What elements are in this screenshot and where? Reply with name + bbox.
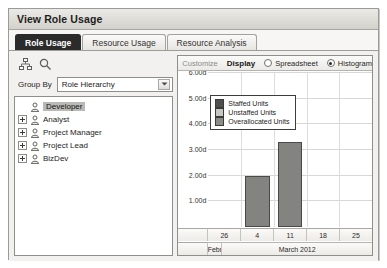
legend-swatch-icon xyxy=(215,108,224,117)
category-gridline xyxy=(339,73,340,227)
expand-plus-icon[interactable] xyxy=(18,128,27,137)
tree-item-label: BizDev xyxy=(43,154,68,163)
tree-item-bizdev[interactable]: BizDev xyxy=(15,152,172,165)
tree-item-project-lead[interactable]: Project Lead xyxy=(15,139,172,152)
window-titlebar: View Role Usage xyxy=(9,9,378,30)
tree-item-label: Project Lead xyxy=(43,141,88,150)
x-axis-month-row: Febr March 2012 xyxy=(208,242,372,255)
tab-strip: Role Usage Resource Usage Resource Analy… xyxy=(9,30,378,51)
radio-histogram-label: Histogram xyxy=(338,59,372,68)
legend-swatch-icon xyxy=(215,117,224,126)
month-label-february: Febr xyxy=(208,243,222,255)
screenshot-root: View Role Usage Role Usage Resource Usag… xyxy=(0,0,387,268)
legend-label: Overallocated Units xyxy=(228,118,289,125)
month-label-march: March 2012 xyxy=(222,243,372,255)
display-label: Display xyxy=(227,59,255,68)
radio-spreadsheet-label: Spreadsheet xyxy=(275,59,318,68)
x-axis-labels: 26 4 11 18 25 xyxy=(208,228,372,241)
y-axis-tick: 6.00d xyxy=(189,71,207,76)
bar-mar-11[interactable] xyxy=(278,142,303,227)
page-title: View Role Usage xyxy=(17,13,102,25)
radio-button-icon[interactable] xyxy=(264,59,272,67)
category-gridline xyxy=(307,73,308,227)
expand-plus-icon[interactable] xyxy=(18,115,27,124)
group-by-row: Group By Role Hierarchy xyxy=(14,73,173,95)
x-axis-corner-stub xyxy=(178,228,208,241)
x-axis-tick: 26 xyxy=(208,229,241,241)
expand-plus-icon[interactable] xyxy=(18,154,27,163)
person-icon xyxy=(30,128,40,138)
y-axis-tick: 3.00d xyxy=(189,146,207,153)
legend-item-overallocated: Overallocated Units xyxy=(215,117,289,126)
x-axis-tick: 25 xyxy=(340,229,372,241)
legend-item-unstaffed: Unstaffed Units xyxy=(215,108,289,117)
person-icon xyxy=(30,154,40,164)
tab-resource-usage[interactable]: Resource Usage xyxy=(82,34,165,50)
search-icon[interactable] xyxy=(39,58,52,71)
tree-toolbar xyxy=(14,55,173,73)
y-axis-tick: 5.00d xyxy=(189,94,207,101)
expander-placeholder-icon xyxy=(18,102,27,111)
legend-item-staffed: Staffed Units xyxy=(215,99,289,108)
group-by-value: Role Hierarchy xyxy=(62,80,115,89)
group-by-label: Group By xyxy=(18,80,52,89)
tab-resource-analysis[interactable]: Resource Analysis xyxy=(167,34,257,50)
legend-swatch-icon xyxy=(215,99,224,108)
chevron-down-icon[interactable] xyxy=(158,79,170,90)
person-icon xyxy=(30,141,40,151)
legend-label: Unstaffed Units xyxy=(228,109,276,116)
y-axis-tick: 4.00d xyxy=(189,120,207,127)
radio-button-selected-icon[interactable] xyxy=(327,59,335,67)
tree-item-developer[interactable]: Developer xyxy=(15,100,172,113)
x-axis-tick: 18 xyxy=(307,229,340,241)
tree-item-label: Project Manager xyxy=(43,128,102,137)
x-axis-tick: 11 xyxy=(274,229,307,241)
chart-panel: Customize Display Spreadsheet Histogram xyxy=(177,55,373,256)
y-axis-tick: 1.00d xyxy=(189,197,207,204)
group-by-select[interactable]: Role Hierarchy xyxy=(57,77,174,92)
gridline: 6.00d xyxy=(208,72,372,73)
display-toolbar: Customize Display Spreadsheet Histogram xyxy=(178,56,372,71)
chart-legend: Staffed Units Unstaffed Units Overalloca… xyxy=(210,95,296,130)
role-tree[interactable]: Developer Analyst xyxy=(14,96,173,256)
legend-label: Staffed Units xyxy=(228,100,268,107)
tree-item-label: Developer xyxy=(43,102,85,111)
customize-link[interactable]: Customize xyxy=(182,59,217,68)
x-axis-tick: 4 xyxy=(241,229,274,241)
month-corner-stub xyxy=(178,242,208,255)
hierarchy-icon[interactable] xyxy=(19,58,32,71)
y-axis-tick: 2.00d xyxy=(189,171,207,178)
tree-item-label: Analyst xyxy=(43,115,69,124)
radio-histogram[interactable]: Histogram xyxy=(327,59,372,68)
view-role-usage-window: View Role Usage Role Usage Resource Usag… xyxy=(8,8,379,260)
expand-plus-icon[interactable] xyxy=(18,141,27,150)
tree-item-analyst[interactable]: Analyst xyxy=(15,113,172,126)
person-icon xyxy=(30,115,40,125)
window-body: Group By Role Hierarchy xyxy=(9,51,378,261)
bar-mar-4[interactable] xyxy=(245,176,270,227)
tree-item-project-manager[interactable]: Project Manager xyxy=(15,126,172,139)
radio-spreadsheet[interactable]: Spreadsheet xyxy=(264,59,318,68)
role-tree-panel: Group By Role Hierarchy xyxy=(14,55,173,256)
person-icon xyxy=(30,102,40,112)
histogram-chart: 6.00d 5.00d 4.00d 3.00d 2.00d xyxy=(178,71,372,255)
tab-role-usage[interactable]: Role Usage xyxy=(15,34,81,50)
